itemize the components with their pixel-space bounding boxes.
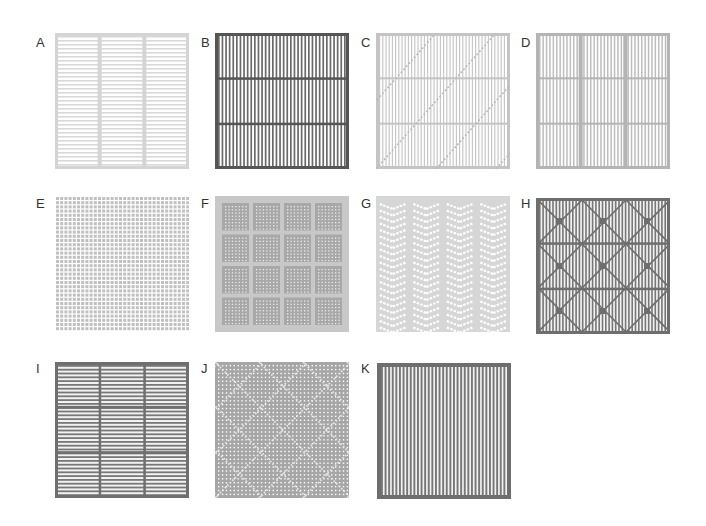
panel-e xyxy=(55,196,189,332)
panel-i xyxy=(55,362,189,498)
panel-a xyxy=(55,33,189,169)
panel-label-j: J xyxy=(201,362,208,375)
panel-label-a: A xyxy=(36,36,45,49)
panel-label-g: G xyxy=(361,197,371,210)
panel-label-h: H xyxy=(521,197,530,210)
panel-g xyxy=(376,196,510,332)
panel-label-f: F xyxy=(201,197,209,210)
panel-label-d: D xyxy=(521,36,530,49)
panel-label-b: B xyxy=(201,36,210,49)
panel-d xyxy=(536,33,670,169)
panel-label-k: K xyxy=(361,362,370,375)
panel-label-i: I xyxy=(36,362,40,375)
panel-label-c: C xyxy=(361,36,370,49)
panel-j xyxy=(215,362,349,498)
panel-h xyxy=(536,198,670,334)
panel-c xyxy=(376,33,510,169)
panel-label-e: E xyxy=(36,197,45,210)
panel-k xyxy=(377,363,511,499)
panel-f xyxy=(215,196,349,332)
panel-b xyxy=(215,33,349,169)
